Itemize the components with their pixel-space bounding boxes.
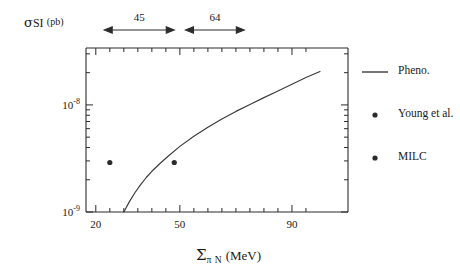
x-tick-marks (96, 48, 306, 212)
sigma-64-arrow-label: 64 (195, 12, 235, 23)
legend-entry-label[interactable]: Young et al. (398, 108, 453, 120)
x-tick-label: 90 (272, 219, 312, 230)
sigma-45-arrow-head-right (166, 27, 174, 33)
pheno-curve (124, 72, 320, 212)
sigma-45-arrow-label: 45 (119, 12, 159, 23)
data-point-milc (172, 160, 177, 165)
data-points (107, 160, 177, 165)
plot-canvas (0, 0, 460, 275)
sigma-45-arrow-head-left (104, 27, 112, 33)
data-point-young-et-al (107, 160, 112, 165)
x-tick-label: 20 (76, 219, 116, 230)
y-tick-label: 10-9 (38, 205, 80, 218)
y-axis-label-unit: (pb) (47, 16, 64, 27)
legend-entry-label[interactable]: Pheno. (398, 65, 430, 77)
y-tick-label: 10-8 (38, 98, 80, 111)
sigma-64-arrow-head-right (236, 27, 244, 33)
axes-frame (86, 48, 348, 212)
x-axis-label-unit: (MeV) (226, 248, 261, 263)
legend-marker-dot (372, 112, 377, 117)
sigma-64-arrow-head-left (185, 27, 193, 33)
annotation-arrows (104, 27, 244, 33)
y-axis-label: σSI (pb) (24, 16, 63, 29)
y-tick-marks (86, 54, 348, 212)
figure-container: σSI (pb) Σπ N (MeV) 205090 10-810-9 4564… (0, 0, 460, 275)
y-axis-label-symbol: σ (24, 15, 33, 30)
legend-markers (362, 72, 388, 161)
y-axis-label-subscript: SI (33, 16, 44, 30)
x-tick-label: 50 (160, 219, 200, 230)
legend-entry-label[interactable]: MILC (398, 151, 427, 163)
legend-marker-dot (372, 155, 377, 160)
x-axis-label-symbol: Σ (196, 246, 207, 264)
x-axis-label-subscript: π N (207, 255, 223, 265)
x-axis-label: Σπ N (MeV) (196, 248, 261, 266)
